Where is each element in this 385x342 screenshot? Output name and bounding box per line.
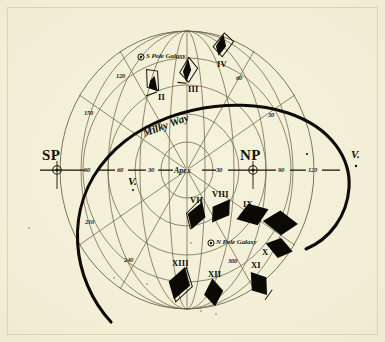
group-label-II: II (158, 93, 165, 102)
axis-tick-right-120: 120 (308, 167, 317, 174)
v-mark-dot-left (132, 189, 134, 191)
axis-tick-left-60: 60 (117, 167, 123, 174)
axis-tick-right-90: 90 (278, 167, 284, 174)
radial-label-120: 120 (116, 73, 125, 80)
v-mark-right: V. (351, 149, 360, 160)
group-XI (243, 266, 276, 303)
n-pole-galaxy-label: N Pole Galaxy (216, 239, 257, 246)
radial-label-300: 300 (228, 258, 237, 265)
s-pole-galaxy-label: S Pole Galaxy (146, 53, 186, 60)
sp-pole-label: SP (42, 148, 60, 163)
s-pole-galaxy-marker (138, 54, 144, 60)
group-IXb (262, 209, 300, 237)
group-label-VIII: VIII (212, 190, 229, 199)
group-label-VII: VII (190, 196, 203, 205)
group-label-IX: IX (243, 200, 253, 209)
group-label-III: III (188, 85, 199, 94)
paper-speck (146, 283, 148, 285)
group-IV (211, 31, 235, 58)
axis-tick-left-90: 90 (84, 167, 90, 174)
group-III (177, 56, 198, 84)
field-dot (306, 153, 308, 155)
radial-label-210: 210 (85, 219, 94, 226)
radial-label-30: 30 (268, 112, 274, 119)
radial-label-240: 240 (124, 257, 133, 264)
diagram-canvas (0, 0, 385, 342)
np-pole-marker (249, 161, 257, 189)
axis-tick-right-30: 30 (216, 167, 222, 174)
paper-speck (200, 310, 202, 312)
v-mark-left: V. (128, 176, 137, 187)
group-label-IV: IV (217, 60, 227, 69)
axis-tick-left-30: 30 (148, 167, 154, 174)
paper-speck (113, 277, 115, 279)
paper-speck (190, 242, 192, 244)
np-pole-label: NP (240, 148, 261, 163)
group-label-XI: XI (251, 261, 261, 270)
figure-page: SP NP Apex 90 60 30 30 90 120 120 150 60… (0, 0, 385, 342)
paper-speck (28, 227, 30, 229)
n-pole-galaxy-marker (208, 240, 214, 246)
radial-label-60: 60 (236, 75, 242, 82)
group-label-X: X (262, 248, 268, 257)
v-mark-dot-right (355, 165, 357, 167)
paper-speck (215, 313, 217, 315)
apex-label: Apex (174, 167, 191, 175)
radial-label-150: 150 (84, 110, 93, 117)
group-XII (203, 278, 224, 307)
group-label-XIII: XIII (172, 259, 189, 268)
group-label-XII: XII (208, 270, 221, 279)
